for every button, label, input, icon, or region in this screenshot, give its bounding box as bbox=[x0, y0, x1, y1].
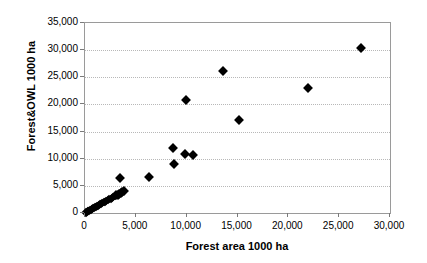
data-point bbox=[95, 201, 103, 209]
data-point bbox=[82, 208, 90, 216]
x-tick-label: 10,000 bbox=[156, 221, 216, 231]
data-point bbox=[98, 199, 106, 207]
data-point bbox=[181, 95, 191, 105]
x-tick-label: 30,000 bbox=[359, 221, 419, 231]
scatter-chart: Forest&OWL 1000 ha 05,00010,00015,00020,… bbox=[0, 0, 427, 263]
x-tick-label: 20,000 bbox=[257, 221, 317, 231]
data-point bbox=[168, 143, 178, 153]
data-points bbox=[85, 23, 390, 213]
gridline bbox=[85, 50, 390, 51]
data-point bbox=[180, 149, 190, 159]
data-point bbox=[218, 66, 228, 76]
x-tick-label: 5,000 bbox=[105, 221, 165, 231]
data-point bbox=[88, 204, 96, 212]
data-point bbox=[94, 201, 102, 209]
data-point bbox=[92, 202, 100, 210]
data-point bbox=[234, 115, 244, 125]
gridline bbox=[85, 186, 390, 187]
data-point bbox=[144, 172, 154, 182]
data-point bbox=[106, 194, 114, 202]
data-point bbox=[169, 159, 179, 169]
data-point bbox=[96, 200, 104, 208]
data-point bbox=[86, 206, 94, 214]
data-point bbox=[188, 150, 198, 160]
data-point bbox=[109, 193, 117, 201]
gridline bbox=[85, 132, 390, 133]
data-point bbox=[89, 204, 97, 212]
data-point bbox=[101, 197, 109, 205]
data-point bbox=[81, 208, 89, 216]
x-tick-label: 15,000 bbox=[207, 221, 267, 231]
data-point bbox=[119, 186, 129, 196]
data-point bbox=[91, 203, 99, 211]
data-point bbox=[303, 83, 313, 93]
data-point bbox=[97, 200, 105, 208]
y-tick-label: 0 bbox=[32, 207, 78, 217]
data-point bbox=[104, 196, 112, 204]
data-point bbox=[87, 205, 95, 213]
plot-area bbox=[84, 22, 391, 214]
gridline bbox=[85, 159, 390, 160]
gridline bbox=[85, 77, 390, 78]
x-axis-title: Forest area 1000 ha bbox=[84, 240, 390, 252]
gridline bbox=[85, 104, 390, 105]
y-axis-title: Forest&OWL 1000 ha bbox=[22, 0, 40, 196]
data-point bbox=[115, 173, 125, 183]
data-point bbox=[113, 190, 123, 200]
data-point bbox=[105, 195, 113, 203]
data-point bbox=[83, 208, 91, 216]
data-point bbox=[83, 207, 91, 215]
data-point bbox=[111, 192, 119, 200]
data-point bbox=[117, 187, 127, 197]
data-point bbox=[90, 204, 98, 212]
data-point bbox=[108, 194, 116, 202]
data-point bbox=[102, 197, 110, 205]
data-point bbox=[85, 206, 93, 214]
data-point bbox=[111, 190, 121, 200]
gridlines bbox=[85, 23, 390, 213]
x-tick-label: 25,000 bbox=[308, 221, 368, 231]
x-tick-label: 0 bbox=[54, 221, 114, 231]
data-point bbox=[91, 203, 99, 211]
data-point bbox=[100, 198, 108, 206]
data-point bbox=[114, 189, 124, 199]
data-point bbox=[356, 43, 366, 53]
data-point bbox=[84, 207, 92, 215]
data-point bbox=[116, 188, 126, 198]
data-point bbox=[86, 205, 94, 213]
